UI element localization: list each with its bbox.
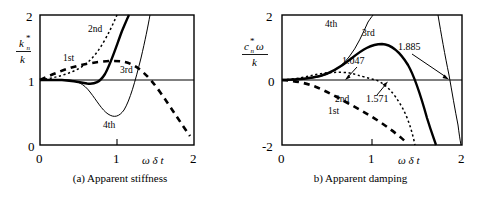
caption-b: b) Apparent damping bbox=[240, 172, 481, 184]
y-axis-label-b: c n * ω k bbox=[242, 36, 268, 68]
svg-text:ω: ω bbox=[256, 40, 264, 52]
svg-text:c: c bbox=[244, 40, 249, 52]
svg-text:k: k bbox=[19, 37, 25, 49]
x-tick-a-2: 2 bbox=[190, 151, 197, 166]
chart-a-svg: k n * k 2 1 0 bbox=[0, 0, 240, 170]
caption-a: (a) Apparent stiffness bbox=[0, 172, 240, 184]
curve-label-a-4th: 4th bbox=[103, 120, 115, 130]
svg-text:k: k bbox=[252, 56, 258, 68]
curve-label-a-2nd: 2nd bbox=[88, 24, 103, 34]
curve-label-b-1st: 1st bbox=[328, 106, 339, 116]
figure-container: k n * k 2 1 0 bbox=[0, 0, 481, 204]
y-tick-b-0: 0 bbox=[268, 74, 275, 89]
annotation-label-1047: 1.047 bbox=[342, 55, 365, 66]
y-tick-b-2: 2 bbox=[266, 9, 273, 24]
y-tick-b-neg2: -2 bbox=[262, 139, 273, 154]
panel-apparent-damping: c n * ω k 2 0 -2 bbox=[240, 0, 481, 204]
svg-text:k: k bbox=[20, 53, 26, 65]
svg-text:*: * bbox=[26, 33, 31, 43]
annotation-label-1885: 1.885 bbox=[398, 41, 421, 52]
y-axis-label-a: k n * k bbox=[16, 33, 31, 65]
y-tick-a-2: 2 bbox=[26, 9, 33, 24]
y-tick-a-0: 0 bbox=[28, 139, 35, 154]
x-tick-a-0: 0 bbox=[36, 151, 43, 166]
curve-label-b-2nd: 2nd bbox=[335, 94, 350, 104]
curve-a-2nd bbox=[40, 15, 117, 80]
annotation-arrow-1047 bbox=[345, 67, 357, 80]
x-axis-label-b: ω δ t bbox=[398, 154, 420, 166]
y-tick-a-1: 1 bbox=[28, 74, 35, 89]
svg-text:n: n bbox=[251, 47, 255, 55]
svg-text:n: n bbox=[27, 44, 31, 52]
x-tick-a-1: 1 bbox=[113, 151, 120, 166]
curve-label-b-4th: 4th bbox=[325, 19, 337, 29]
curve-label-a-1st: 1st bbox=[63, 53, 74, 63]
curve-b-1st bbox=[282, 80, 406, 142]
x-tick-b-0: 0 bbox=[278, 151, 285, 166]
annotation-arrow-1885 bbox=[412, 54, 449, 80]
curve-label-b-3rd: 3rd bbox=[362, 28, 375, 38]
curve-label-a-3rd: 3rd bbox=[120, 65, 133, 75]
panel-apparent-stiffness: k n * k 2 1 0 bbox=[0, 0, 240, 204]
x-tick-b-1: 1 bbox=[368, 151, 375, 166]
x-axis-label-a: ω δ t bbox=[142, 154, 164, 166]
svg-text:*: * bbox=[250, 36, 255, 46]
x-tick-b-2: 2 bbox=[458, 151, 465, 166]
chart-b-svg: c n * ω k 2 0 -2 bbox=[240, 0, 481, 170]
